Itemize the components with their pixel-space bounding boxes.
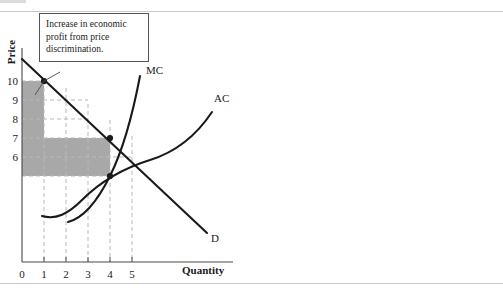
x-tick-label-4: 4: [103, 268, 117, 280]
y-tick-label-8: 8: [4, 113, 18, 125]
figure-root: Increase in economic profit from price d…: [0, 0, 503, 290]
point-q4-ac: [107, 173, 113, 179]
y-tick-label-6: 6: [4, 151, 18, 163]
x-tick-label-0: 0: [15, 268, 29, 280]
x-tick-label-2: 2: [59, 268, 73, 280]
x-tick-label-3: 3: [81, 268, 95, 280]
mc-curve-label: MC: [146, 64, 163, 76]
y-tick-label-9: 9: [4, 94, 18, 106]
ac-curve-label: AC: [214, 92, 229, 104]
y-tick-label-10: 10: [4, 75, 18, 87]
d-curve-label: D: [211, 232, 219, 244]
y-axis-title: Price: [5, 32, 17, 72]
x-tick-label-1: 1: [37, 268, 51, 280]
point-q4-p7: [107, 135, 113, 141]
profit-annotation-box: Increase in economic profit from price d…: [39, 13, 149, 62]
x-axis-ticks: [44, 257, 132, 262]
y-tick-label-7: 7: [4, 132, 18, 144]
x-axis-title: Quantity: [182, 264, 224, 276]
x-tick-label-5: 5: [125, 268, 139, 280]
profit-annotation-text: Increase in economic profit from price d…: [46, 19, 127, 54]
